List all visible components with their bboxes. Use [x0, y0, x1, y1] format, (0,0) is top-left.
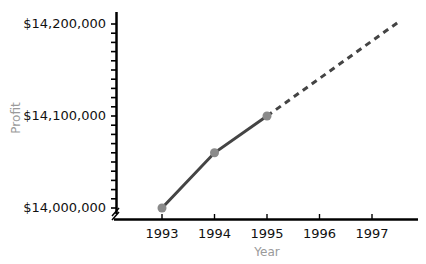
y-axis-labels: $14,200,000 $14,100,000 $14,000,000 — [23, 16, 106, 215]
y-tick-label: $14,000,000 — [23, 200, 106, 215]
y-tick-label: $14,200,000 — [23, 16, 106, 31]
data-point-marker — [263, 112, 272, 121]
x-tick-label: 1993 — [145, 226, 178, 241]
x-axis-labels: 1993 1994 1995 1996 1997 — [145, 226, 388, 241]
y-tick-label: $14,100,000 — [23, 108, 106, 123]
x-tick-label: 1994 — [198, 226, 231, 241]
x-tick-label: 1996 — [303, 226, 336, 241]
x-tick-label: 1995 — [250, 226, 283, 241]
actual-line — [162, 116, 267, 208]
data-point-marker — [158, 204, 167, 213]
projected-line — [267, 22, 398, 116]
x-tick-label: 1997 — [355, 226, 388, 241]
profit-line-chart: $14,200,000 $14,100,000 $14,000,000 1993… — [0, 0, 426, 264]
x-axis-title: Year — [253, 245, 279, 259]
y-axis-title: Profit — [9, 102, 23, 134]
data-series — [158, 22, 399, 212]
data-point-marker — [210, 148, 219, 157]
